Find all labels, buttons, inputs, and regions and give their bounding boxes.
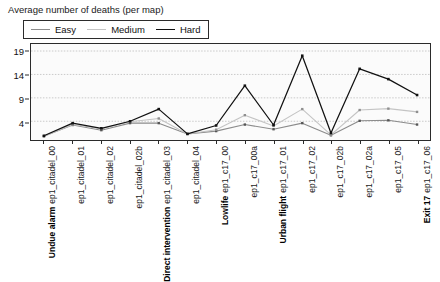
data-point-marker (186, 133, 189, 136)
x-axis-tick-label: ep1_citadel_02 (105, 146, 115, 204)
x-axis-tick-label: ep1_c17_02b (335, 146, 345, 198)
data-point-marker (272, 128, 274, 130)
x-axis-label-group: ep1_c17_06Exit 17 (422, 146, 440, 246)
y-axis: 491419 (0, 43, 27, 141)
y-axis-tick-label: 4 (19, 117, 24, 128)
x-axis-label-group: ep1_citadel_01 (76, 146, 176, 246)
x-axis-tick-mark (158, 141, 159, 144)
y-axis-tick-mark (25, 98, 29, 99)
x-axis-label-group: ep1_c17_05 (393, 146, 440, 246)
legend-label: Medium (111, 24, 145, 35)
x-axis-label-group: ep1_c17_02b (335, 146, 435, 246)
data-point-marker (387, 107, 389, 109)
x-axis-tick-label: ep1_citadel_02b (134, 146, 144, 208)
x-axis-tick-mark (331, 141, 332, 144)
data-point-marker (387, 78, 390, 81)
x-axis-tick-label: ep1_c17_05 (393, 146, 403, 193)
data-point-marker (43, 135, 46, 138)
data-point-marker (129, 120, 132, 123)
x-axis: ep1_citadel_00Undue alarmep1_citadel_01e… (30, 141, 431, 246)
legend-label: Easy (55, 24, 76, 35)
data-point-marker (244, 114, 246, 116)
x-axis-tick-mark (389, 141, 390, 144)
x-axis-tick-mark (274, 141, 275, 144)
x-axis-tick-label: ep1_citadel_03 (162, 146, 172, 204)
x-axis-group-header: Urban flight (278, 196, 288, 244)
plot-area (30, 43, 431, 141)
x-axis-label-group: ep1_c17_02a (364, 146, 440, 246)
legend-label: Hard (180, 24, 201, 35)
x-axis-tick-mark (43, 141, 44, 144)
data-point-marker (358, 68, 361, 71)
x-axis-tick-label: ep1_c17_00 (220, 146, 230, 193)
x-axis-label-group: ep1_citadel_02 (105, 146, 205, 246)
x-axis-label-group: ep1_c17_00Lowlife (220, 146, 320, 246)
x-axis-group-header: Undue alarm (47, 207, 57, 259)
data-point-marker (157, 108, 160, 111)
x-axis-tick-mark (130, 141, 131, 144)
plot-svg (31, 44, 430, 140)
x-axis-tick-label: ep1_citadel_00 (47, 146, 57, 204)
data-point-marker (71, 122, 74, 125)
data-point-marker (358, 109, 360, 111)
x-axis-tick-mark (245, 141, 246, 144)
legend-item-medium[interactable]: Medium (87, 24, 145, 35)
y-axis-tick-mark (25, 51, 29, 52)
legend-line-icon (156, 29, 175, 30)
x-axis-tick-mark (216, 141, 217, 144)
data-point-marker (416, 111, 418, 113)
data-point-marker (100, 127, 103, 130)
data-point-marker (301, 108, 303, 110)
x-axis-label-group: ep1_citadel_00Undue alarm (47, 146, 147, 246)
y-axis-tick-label: 19 (13, 46, 24, 57)
legend-line-icon (87, 29, 106, 30)
x-axis-tick-mark (187, 141, 188, 144)
x-axis-label-group: ep1_c17_02 (307, 146, 407, 246)
data-point-marker (387, 119, 389, 121)
x-axis-tick-mark (72, 141, 73, 144)
x-axis-label-group: ep1_citadel_02b (134, 146, 234, 246)
series-line-hard (44, 56, 417, 136)
x-axis-group-header: Exit 17 (422, 196, 432, 223)
x-axis-tick-label: ep1_c17_02a (364, 146, 374, 198)
data-point-marker (158, 122, 160, 124)
data-point-marker (244, 84, 247, 87)
data-point-marker (272, 124, 275, 127)
legend-item-hard[interactable]: Hard (156, 24, 201, 35)
x-axis-label-group: ep1_citadel_03Direct intervention (162, 146, 262, 246)
data-point-marker (416, 123, 418, 125)
x-axis-label-group: ep1_c17_00a (249, 146, 349, 246)
x-axis-tick-label: ep1_c17_06 (422, 146, 432, 193)
x-axis-group-header: Lowlife (220, 196, 230, 225)
data-point-marker (416, 94, 419, 97)
y-axis-tick-mark (25, 75, 29, 76)
y-axis-tick-mark (25, 122, 29, 123)
data-point-marker (330, 132, 333, 135)
data-point-marker (301, 54, 304, 57)
y-axis-tick-label: 9 (19, 93, 24, 104)
x-axis-label-group: ep1_c17_01Urban flight (278, 146, 378, 246)
legend-line-icon (31, 29, 50, 30)
data-point-marker (301, 122, 303, 124)
data-point-marker (158, 117, 160, 119)
y-axis-tick-label: 14 (13, 70, 24, 81)
x-axis-label-group: ep1_citadel_04 (191, 146, 291, 246)
data-point-marker (215, 129, 217, 131)
x-axis-tick-mark (101, 141, 102, 144)
chart-legend: EasyMediumHard (23, 20, 209, 39)
x-axis-tick-mark (418, 141, 419, 144)
data-point-marker (358, 120, 360, 122)
x-axis-tick-label: ep1_citadel_04 (191, 146, 201, 204)
x-axis-tick-mark (303, 141, 304, 144)
x-axis-tick-label: ep1_citadel_01 (76, 146, 86, 204)
x-axis-tick-label: ep1_c17_01 (278, 146, 288, 193)
x-axis-tick-label: ep1_c17_00a (249, 146, 259, 198)
legend-item-easy[interactable]: Easy (31, 24, 76, 35)
data-point-marker (244, 123, 246, 125)
x-axis-group-header: Direct intervention (162, 207, 172, 282)
data-point-marker (215, 124, 218, 127)
chart-title: Average number of deaths (per map) (8, 4, 164, 15)
x-axis-tick-mark (360, 141, 361, 144)
series-line-medium (44, 109, 417, 137)
